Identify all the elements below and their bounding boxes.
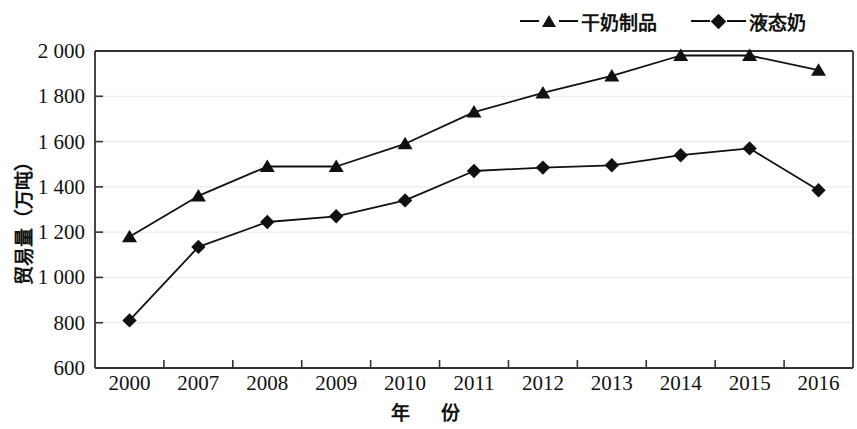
data-point-marker[interactable] — [329, 209, 343, 223]
data-point-marker[interactable] — [467, 164, 481, 178]
data-point-marker[interactable] — [122, 230, 137, 243]
data-point-marker[interactable] — [742, 141, 756, 155]
data-point-marker[interactable] — [398, 137, 413, 150]
data-point-marker[interactable] — [674, 148, 688, 162]
data-point-marker[interactable] — [191, 189, 206, 202]
plot-area — [0, 0, 857, 429]
data-point-marker[interactable] — [536, 160, 550, 174]
data-point-marker[interactable] — [605, 158, 619, 172]
chart-figure: 干奶制品 液态奶 贸易量（万吨） 年 份 2 0001 8001 6001 40… — [0, 0, 857, 429]
data-point-marker[interactable] — [811, 183, 825, 197]
data-point-marker[interactable] — [398, 193, 412, 207]
series-line-1 — [130, 56, 819, 237]
data-point-marker[interactable] — [260, 215, 274, 229]
